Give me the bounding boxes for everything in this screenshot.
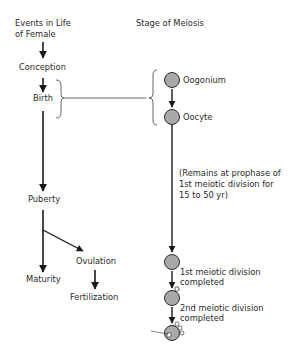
prophase-note-line1: (Remains at prophase of (179, 168, 281, 179)
oogonium-cell (165, 73, 180, 88)
event-birth: Birth (33, 93, 53, 104)
polar-body-1 (175, 322, 179, 326)
secondary-oocyte-cell (165, 291, 180, 306)
stage-bracket (149, 70, 157, 125)
second-division-line2: completed (180, 313, 224, 324)
stage-oocyte: Oocyte (183, 112, 212, 123)
header-stage: Stage of Meiosis (136, 18, 204, 29)
birth-bracket (56, 80, 64, 118)
first-division-line1: 1st meiotic division (180, 267, 261, 278)
polar-body-3 (180, 331, 184, 335)
arrow-to-ovulation (43, 230, 83, 251)
first-polar-body (175, 287, 179, 291)
event-fertilization: Fertilization (70, 292, 118, 303)
header-events-line2: of Female (15, 29, 56, 40)
event-maturity: Maturity (26, 274, 61, 285)
event-puberty: Puberty (28, 194, 60, 205)
event-ovulation: Ovulation (76, 256, 116, 267)
ovum-cell (165, 326, 180, 341)
prophase-note-line3: 15 to 50 yr) (179, 190, 228, 201)
first-division-line2: completed (180, 277, 224, 288)
ovum-nucleus (167, 333, 171, 337)
stage-oogonium: Oogonium (183, 75, 226, 86)
prophase-note-line2: 1st meiotic division for (179, 179, 274, 190)
polar-body-2 (178, 326, 182, 330)
primary-oocyte-cell (165, 255, 180, 270)
header-events-line1: Events in Life (15, 18, 71, 29)
event-conception: Conception (19, 62, 66, 73)
oocyte-cell (165, 110, 180, 125)
second-division-line1: 2nd meiotic division (180, 303, 264, 314)
